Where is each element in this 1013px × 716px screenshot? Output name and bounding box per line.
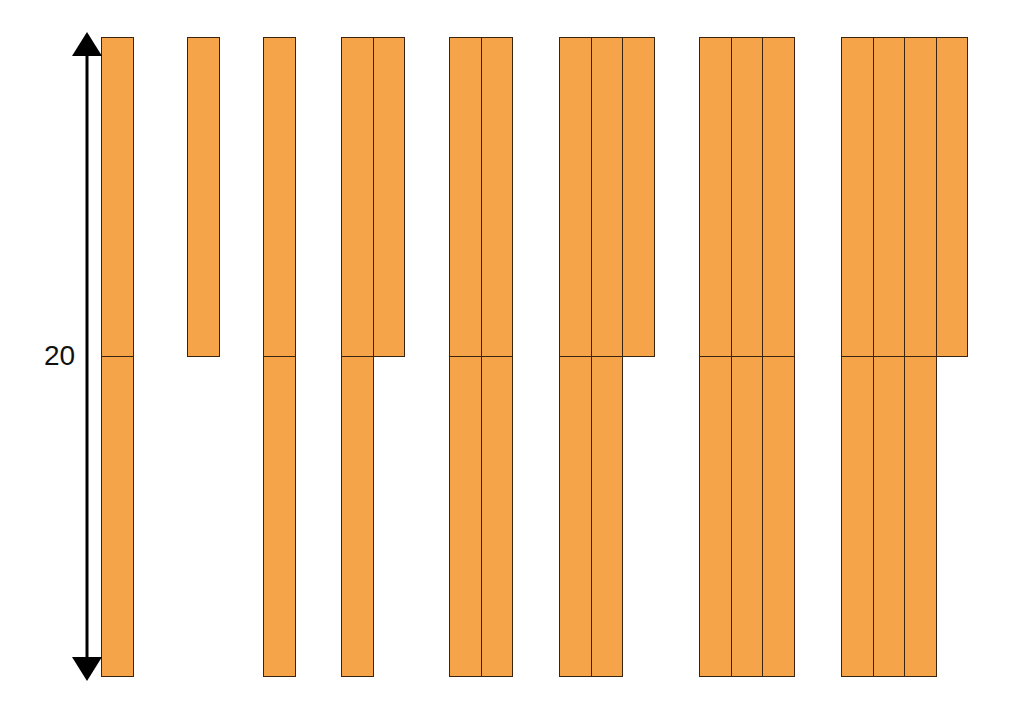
dimension-label: 20 [44, 340, 75, 372]
height-arrow-icon [0, 0, 1013, 716]
